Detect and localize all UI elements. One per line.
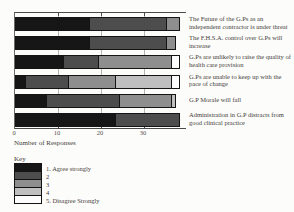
stacked-bar [15,113,180,127]
bar-segment [46,95,119,107]
stacked-bar [15,75,180,89]
bar-segment [171,56,180,68]
bar-segment [171,95,175,107]
bar-segment [98,56,171,68]
bar-segment [115,76,171,88]
bar-category-label: G.Ps are unlikely to raise the quality o… [189,52,292,69]
bar-segment [63,56,97,68]
axis-tick [101,13,102,16]
legend-entry-label: 5. Disagree Strongly [46,197,100,204]
legend-title: Key [14,155,100,163]
plot-area [14,12,186,129]
x-tick-label: 30 [140,129,147,136]
bar-segment [16,76,25,88]
stacked-bar [15,17,180,31]
legend-entry-label: 2 [46,173,49,180]
bar-category-label: G.P Morale will fall [189,91,292,108]
legend-entry-label: 1. Agree strongly [46,165,91,172]
bar-segment [16,37,89,49]
bar-segment [89,37,166,49]
axis-tick [144,13,145,16]
axis-tick [58,13,59,16]
bar-segment [171,76,180,88]
stacked-bar [15,55,180,69]
legend-entry-label: 4 [46,189,49,196]
bar-category-label: The Future of the G.Ps as an independent… [189,14,292,31]
survey-stacked-bar-figure: The Future of the G.Ps as an independent… [0,0,294,212]
bar-category-label: The F.H.S.A. control over G.Ps will incr… [189,33,292,50]
x-tick-label: 20 [97,129,104,136]
bar-category-label: G.Ps are unable to keep up with the pace… [189,72,292,89]
legend-swatch [14,195,42,204]
bar-segment [16,18,89,30]
legend: Key 1. Agree strongly2345. Disagree Stro… [14,155,100,204]
bar-segment [166,18,179,30]
bar-segment [119,95,171,107]
bar-category-label: Administration in G.P distracts from goo… [189,110,292,127]
bar-segment [89,18,166,30]
legend-entry: 5. Disagree Strongly [14,196,100,204]
bar-segment [115,114,180,126]
bar-segment [68,76,115,88]
bar-segment [16,56,63,68]
stacked-bar [15,36,176,50]
x-axis-title: Number of Responses [14,139,76,147]
stacked-bar [15,94,176,108]
bar-segment [166,37,175,49]
x-tick-label: 0 [12,129,15,136]
bar-segment [16,114,115,126]
legend-entry-label: 3 [46,181,49,188]
x-tick-label: 10 [54,129,61,136]
bar-segment [25,76,68,88]
bar-segment [16,95,46,107]
